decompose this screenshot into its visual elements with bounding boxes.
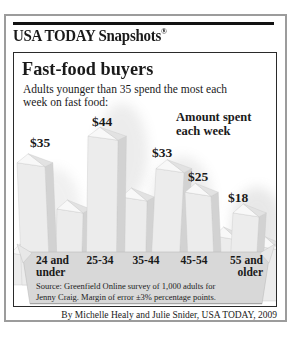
category-label: 55 and older	[217, 254, 263, 279]
snapshot-frame: USA TODAY Snapshots® Fast-food buyers Ad…	[4, 14, 287, 322]
value-label: $35	[18, 135, 62, 151]
byline: By Michelle Healy and Julie Snider, USA …	[61, 310, 277, 320]
chart-annotation: Amount spent each week	[176, 110, 276, 139]
snapshot-graphic: USA TODAY Snapshots® Fast-food buyers Ad…	[0, 0, 293, 337]
value-label: $44	[80, 114, 124, 130]
brand-text: USA TODAY Snapshots	[13, 26, 161, 45]
source-line-2: Jenny Craig. Margin of error ±3% percent…	[36, 292, 254, 303]
value-label: $25	[176, 169, 220, 185]
chart-subtitle: Adults younger than 35 spend the most ea…	[23, 83, 249, 109]
source-line-1: Source: Greenfield Online survey of 1,00…	[36, 281, 254, 292]
category-label: 45-54	[173, 254, 215, 266]
category-label: 25-34	[79, 254, 121, 266]
top-rule	[13, 22, 274, 25]
chart-title: Fast-food buyers	[22, 58, 153, 80]
chart-panel: Fast-food buyers Adults younger than 35 …	[13, 52, 277, 307]
value-label: $18	[216, 190, 260, 206]
brand-header: USA TODAY Snapshots®	[13, 26, 167, 46]
registered-mark-icon: ®	[161, 26, 167, 36]
category-label: 24 and under	[36, 254, 82, 279]
source-note: Source: Greenfield Online survey of 1,00…	[36, 281, 254, 303]
category-label: 35-44	[125, 254, 167, 266]
value-label: $33	[140, 145, 184, 161]
